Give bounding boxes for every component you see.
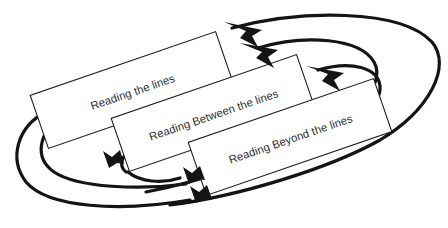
arrowhead-inner-loop-icon — [306, 66, 344, 91]
diagram-canvas: Reading the lines Reading Between the li… — [0, 0, 448, 228]
connector-forward-1-path — [128, 172, 180, 181]
diagram-svg: Reading the lines Reading Between the li… — [0, 0, 448, 228]
